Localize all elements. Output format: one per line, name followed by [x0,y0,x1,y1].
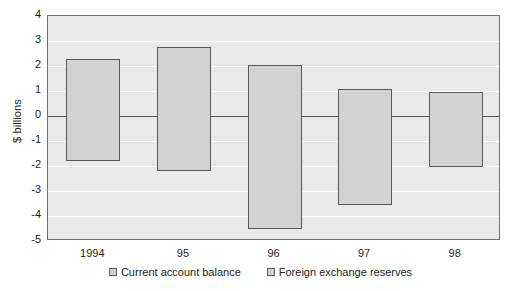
y-tick-label: 0 [11,109,41,120]
legend-swatch-icon [109,268,117,276]
y-tick-label: -4 [11,209,41,220]
legend-label: Foreign exchange reserves [279,266,412,278]
bar [157,47,211,171]
gridline [48,41,499,42]
y-tick-label: 4 [11,9,41,20]
y-tick-label: 2 [11,59,41,70]
x-tick-label: 98 [449,247,461,259]
x-tick-label: 95 [177,247,189,259]
legend-item: Foreign exchange reserves [267,266,412,278]
x-tick-label: 1994 [80,247,104,259]
chart-legend: Current account balanceForeign exchange … [0,266,521,278]
bar [66,59,120,162]
legend-swatch-icon [267,268,275,276]
bar [248,65,302,229]
x-tick-label: 96 [267,247,279,259]
legend-label: Current account balance [121,266,241,278]
y-axis-tick-labels: 43210-1-2-3-4-5 [0,15,41,240]
y-tick-label: -5 [11,234,41,245]
y-tick-label: 3 [11,34,41,45]
x-tick-label: 97 [358,247,370,259]
y-tick-label: 1 [11,84,41,95]
bar [338,89,392,205]
plot-area [47,15,500,240]
y-tick-label: -3 [11,184,41,195]
bar [429,92,483,167]
legend-item: Current account balance [109,266,241,278]
chart-figure: $ billions 43210-1-2-3-4-5 199495969798 … [0,0,521,291]
y-tick-label: -1 [11,134,41,145]
y-tick-label: -2 [11,159,41,170]
